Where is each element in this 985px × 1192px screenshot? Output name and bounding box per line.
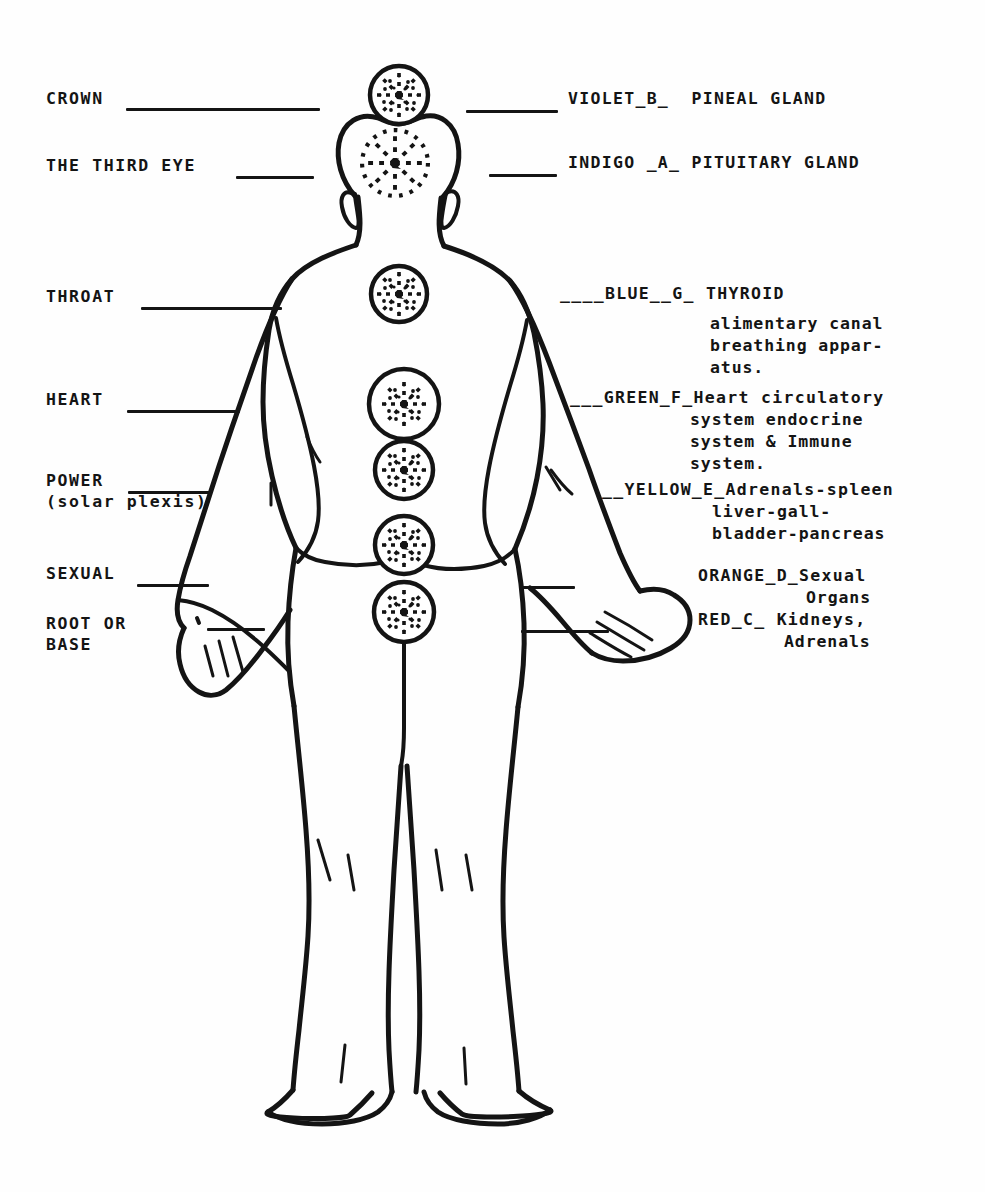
left-label-crown: CROWN xyxy=(46,88,104,109)
left-label-third-eye: THE THIRD EYE xyxy=(46,155,196,176)
right-detail-blue-2: breathing appar- xyxy=(710,335,883,357)
left-label-heart: HEART xyxy=(46,389,104,410)
crown-chakra xyxy=(370,66,428,124)
right-detail-yellow-2: bladder-pancreas xyxy=(712,523,885,545)
solar-plexus-chakra xyxy=(375,441,433,499)
root-chakra xyxy=(374,582,434,642)
left-label-root: ROOT OR xyxy=(46,613,127,634)
right-label-green: ___GREEN_F_Heart circulatory xyxy=(570,387,885,408)
right-label-orange: ORANGE_D_Sexual xyxy=(698,565,867,586)
answer-rule-orange[interactable] xyxy=(521,586,575,589)
right-detail-blue-3: atus. xyxy=(710,357,764,379)
right-detail-yellow-1: liver-gall- xyxy=(712,501,831,523)
left-sublabel-base: BASE xyxy=(46,634,92,655)
left-label-power: POWER xyxy=(46,470,104,491)
left-sublabel-solar-plexis: (solar plexis) xyxy=(46,491,207,512)
right-label-blue: ____BLUE__G_ THYROID xyxy=(560,283,785,304)
right-detail-blue-1: alimentary canal xyxy=(710,313,883,335)
answer-rule-crown[interactable] xyxy=(126,108,320,111)
answer-rule-heart[interactable] xyxy=(127,410,240,413)
right-detail-green-2: system & Immune xyxy=(690,431,853,453)
answer-rule-red[interactable] xyxy=(521,630,609,633)
answer-rule-violet[interactable] xyxy=(466,110,558,113)
right-label-violet: VIOLET_B_ PINEAL GLAND xyxy=(568,88,826,109)
answer-rule-sexual[interactable] xyxy=(137,584,209,587)
answer-rule-root[interactable] xyxy=(207,628,265,631)
left-label-sexual: SEXUAL xyxy=(46,563,115,584)
worksheet-page: CROWN THE THIRD EYE THROAT HEART POWER (… xyxy=(0,0,985,1192)
right-detail-orange-1: Organs xyxy=(806,587,871,609)
answer-rule-throat[interactable] xyxy=(141,307,282,310)
right-label-indigo: INDIGO _A_ PITUITARY GLAND xyxy=(568,152,860,173)
throat-chakra xyxy=(371,266,427,322)
right-label-yellow: __YELLOW_E_Adrenals-spleen xyxy=(602,479,894,500)
right-detail-red-1: Adrenals xyxy=(784,631,871,653)
third-eye-chakra xyxy=(362,130,428,196)
heart-chakra xyxy=(369,369,439,439)
answer-rule-indigo[interactable] xyxy=(489,174,557,177)
sexual-chakra xyxy=(375,516,433,574)
left-label-throat: THROAT xyxy=(46,286,115,307)
right-detail-green-3: system. xyxy=(690,453,766,475)
answer-rule-third-eye[interactable] xyxy=(236,176,314,179)
right-label-red: RED_C_ Kidneys, xyxy=(698,609,867,630)
right-detail-green-1: system endocrine xyxy=(690,409,863,431)
